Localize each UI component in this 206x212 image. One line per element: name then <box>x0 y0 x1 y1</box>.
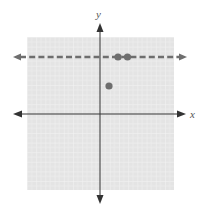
y-axis-label: y <box>95 8 101 20</box>
data-point <box>124 53 131 60</box>
x-axis-right-arrow-icon <box>177 111 186 118</box>
coordinate-plane: x y <box>0 0 206 212</box>
dashed-line-right-arrow-icon <box>179 54 187 61</box>
y-axis-down-arrow-icon <box>97 195 104 204</box>
y-axis-up-arrow-icon <box>97 23 104 32</box>
data-point <box>114 53 121 60</box>
data-point <box>105 82 112 89</box>
x-axis-label: x <box>189 108 195 120</box>
dashed-line-left-arrow-icon <box>13 54 21 61</box>
x-axis-left-arrow-icon <box>13 111 22 118</box>
